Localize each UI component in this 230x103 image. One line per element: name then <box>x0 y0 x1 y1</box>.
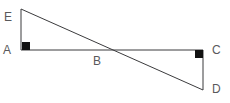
vertex-label-D: D <box>212 83 221 95</box>
vertex-label-B: B <box>93 55 101 67</box>
vertex-label-A: A <box>3 44 11 56</box>
geometry-canvas <box>0 0 230 103</box>
segment-group <box>21 9 203 90</box>
right-angle-marker-C <box>195 50 203 58</box>
right-angle-marker-A <box>22 42 30 50</box>
vertex-label-E: E <box>4 11 12 23</box>
vertex-label-C: C <box>212 44 221 56</box>
geometry-figure: E A B C D <box>0 0 230 103</box>
